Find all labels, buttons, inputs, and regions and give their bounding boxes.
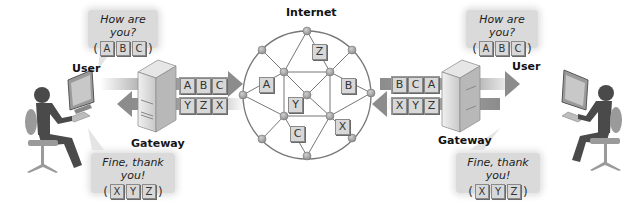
paren-close: )	[527, 42, 532, 56]
packet-Y: Y	[126, 184, 140, 199]
network-packet-B: B	[341, 78, 356, 94]
packet-Z: Z	[196, 98, 211, 114]
packet-B: B	[495, 41, 509, 56]
network-packet-A: A	[259, 77, 274, 93]
network-packet-X: X	[335, 119, 350, 135]
left-outgoing-packets: A B C	[179, 77, 228, 95]
packet-Z: Z	[424, 98, 439, 114]
internet-label: Internet	[286, 6, 337, 19]
left-gateway-server-icon	[138, 60, 176, 132]
packet-A: A	[479, 41, 493, 56]
right-user-person-icon	[562, 70, 622, 171]
left-gateway-label: Gateway	[131, 137, 185, 150]
left-answer-bubble-tail	[88, 128, 104, 150]
packet-C: C	[212, 78, 227, 94]
left-user-person-icon	[25, 70, 94, 173]
network-packet-Z: Z	[312, 44, 327, 60]
network-packet-C: C	[290, 126, 305, 142]
right-gateway-label: Gateway	[438, 134, 492, 147]
packet-C: C	[408, 77, 423, 93]
packet-A: A	[424, 77, 439, 93]
paren-open: (	[472, 42, 477, 56]
right-answer-text: Fine, thank you!	[456, 156, 540, 182]
paren-close: )	[158, 185, 163, 199]
packet-X: X	[392, 98, 407, 114]
paren-close: )	[148, 42, 153, 56]
left-question-packets: ( A B C )	[88, 41, 158, 56]
packet-A: A	[180, 78, 195, 94]
packet-B: B	[392, 77, 407, 93]
left-answer-text: Fine, thank you!	[91, 156, 175, 182]
right-gateway-server-icon	[442, 60, 480, 132]
paren-close: )	[523, 185, 528, 199]
packet-X: X	[212, 98, 227, 114]
packet-B: B	[116, 41, 130, 56]
right-question-bubble: How are you? ( A B C )	[466, 10, 538, 48]
left-incoming-packets: Y Z X	[179, 97, 228, 115]
left-answer-bubble: Fine, thank you! ( X Y Z )	[91, 153, 175, 193]
right-question-text: How are you?	[466, 13, 538, 39]
diagram: Internet User Gateway User Gateway How a…	[0, 0, 626, 203]
right-answer-packets: ( X Y Z )	[456, 184, 540, 199]
packet-X: X	[475, 184, 489, 199]
left-question-bubble: How are you? ( A B C )	[88, 10, 158, 48]
right-incoming-packets: B C A	[391, 76, 440, 94]
packet-C: C	[132, 41, 146, 56]
packet-Y: Y	[408, 98, 423, 114]
packet-B: B	[196, 78, 211, 94]
left-user-label: User	[72, 62, 100, 75]
packet-Z: Z	[507, 184, 521, 199]
right-outgoing-packets: X Y Z	[391, 97, 440, 115]
left-question-text: How are you?	[88, 13, 158, 39]
packet-C: C	[511, 41, 525, 56]
right-question-packets: ( A B C )	[466, 41, 538, 56]
paren-open: (	[468, 185, 473, 199]
paren-open: (	[93, 42, 98, 56]
right-answer-bubble: Fine, thank you! ( X Y Z )	[456, 153, 540, 193]
right-user-label: User	[512, 60, 540, 73]
paren-open: (	[103, 185, 108, 199]
packet-Y: Y	[180, 98, 195, 114]
packet-X: X	[110, 184, 124, 199]
packet-A: A	[100, 41, 114, 56]
packet-Y: Y	[491, 184, 505, 199]
left-answer-packets: ( X Y Z )	[91, 184, 175, 199]
packet-Z: Z	[142, 184, 156, 199]
network-packet-Y: Y	[288, 97, 303, 113]
